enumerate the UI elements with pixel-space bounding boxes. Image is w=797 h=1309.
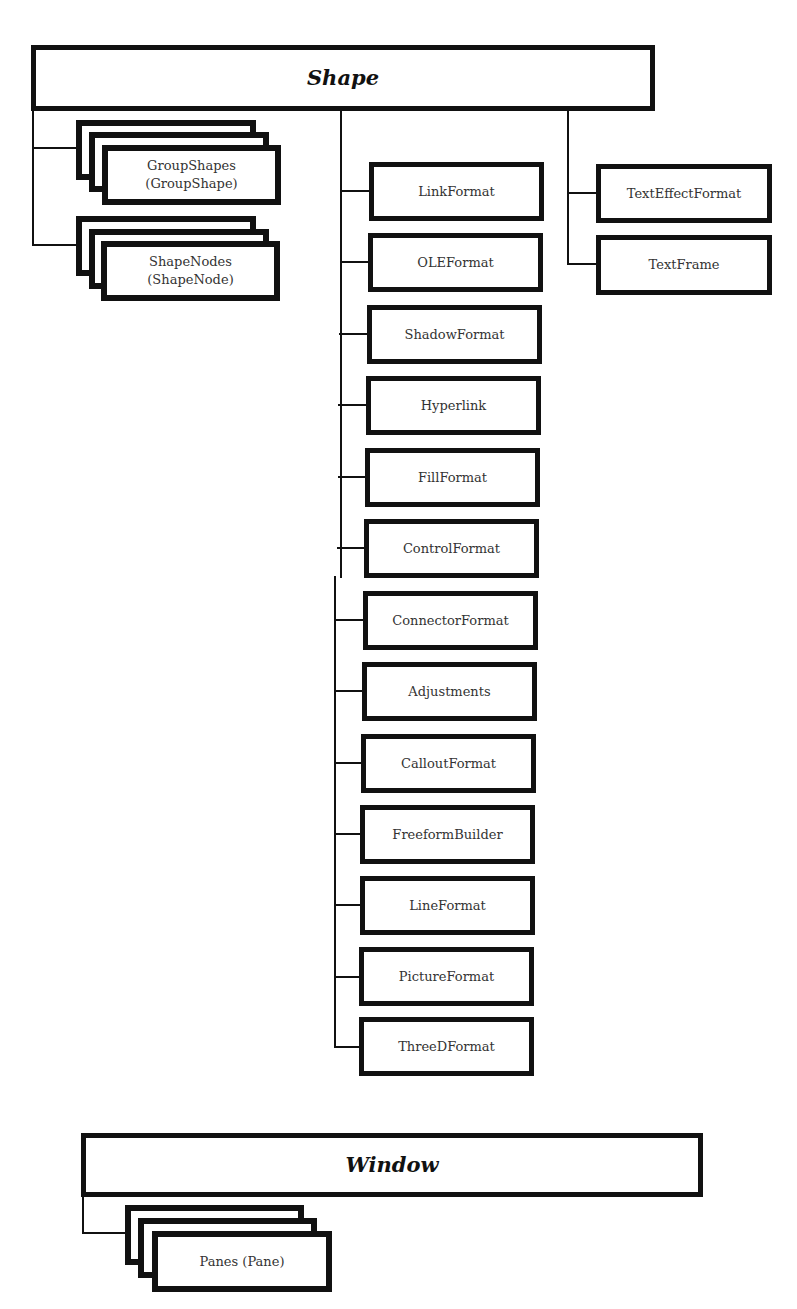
- connector-connectorformat: [335, 619, 364, 621]
- connector-freeformbuilder: [334, 833, 361, 835]
- connector-shadowformat: [339, 333, 368, 335]
- textframe-label: TextFrame: [649, 256, 720, 274]
- linkformat-box[interactable]: LinkFormat: [369, 162, 544, 221]
- shape-object-box[interactable]: Shape: [31, 45, 655, 111]
- connector-shapenodes: [32, 244, 78, 246]
- calloutformat-label: CalloutFormat: [401, 755, 496, 773]
- window-object-box[interactable]: Window: [81, 1133, 703, 1197]
- object-model-diagram: Shape GroupShapes (GroupShape) ShapeNode…: [0, 0, 797, 1309]
- controlformat-label: ControlFormat: [403, 540, 500, 558]
- adjustments-box[interactable]: Adjustments: [362, 662, 537, 721]
- connector-window-vertical: [82, 1194, 84, 1234]
- freeformbuilder-box[interactable]: FreeformBuilder: [360, 805, 535, 864]
- connector-panes: [82, 1232, 128, 1234]
- pictureformat-label: PictureFormat: [399, 968, 494, 986]
- connectorformat-box[interactable]: ConnectorFormat: [363, 591, 538, 650]
- fillformat-label: FillFormat: [418, 469, 487, 487]
- oleformat-label: OLEFormat: [417, 254, 493, 272]
- connector-textframe: [567, 263, 597, 265]
- shapenodes-label: ShapeNodes (ShapeNode): [147, 253, 233, 289]
- hyperlink-label: Hyperlink: [421, 397, 486, 415]
- freeformbuilder-label: FreeformBuilder: [392, 826, 502, 844]
- shape-title: Shape: [307, 69, 379, 87]
- lineformat-box[interactable]: LineFormat: [360, 876, 535, 935]
- shapenodes-collection-box[interactable]: ShapeNodes (ShapeNode): [101, 241, 280, 301]
- fillformat-box[interactable]: FillFormat: [365, 448, 540, 507]
- shadowformat-box[interactable]: ShadowFormat: [367, 305, 542, 364]
- panes-label: Panes (Pane): [200, 1253, 285, 1271]
- threedformat-box[interactable]: ThreeDFormat: [359, 1017, 534, 1076]
- oleformat-box[interactable]: OLEFormat: [368, 233, 543, 292]
- threedformat-label: ThreeDFormat: [398, 1038, 495, 1056]
- textframe-box[interactable]: TextFrame: [596, 235, 772, 295]
- connector-adjustments: [335, 690, 363, 692]
- connector-fillformat: [338, 476, 366, 478]
- pictureformat-box[interactable]: PictureFormat: [359, 947, 534, 1006]
- panes-collection-box[interactable]: Panes (Pane): [152, 1231, 332, 1292]
- groupshapes-label: GroupShapes (GroupShape): [145, 157, 237, 193]
- connector-lineformat: [334, 904, 361, 906]
- calloutformat-box[interactable]: CalloutFormat: [361, 734, 536, 793]
- groupshapes-collection-box[interactable]: GroupShapes (GroupShape): [102, 145, 281, 205]
- connector-groupshapes: [32, 147, 78, 149]
- connector-pictureformat: [334, 976, 360, 978]
- connectorformat-label: ConnectorFormat: [392, 612, 508, 630]
- connector-oleformat: [340, 261, 369, 263]
- connector-left-vertical: [32, 108, 34, 246]
- shadowformat-label: ShadowFormat: [405, 326, 505, 344]
- connector-threedformat: [334, 1046, 360, 1048]
- lineformat-label: LineFormat: [409, 897, 486, 915]
- hyperlink-box[interactable]: Hyperlink: [366, 376, 541, 435]
- texteffectformat-label: TextEffectFormat: [627, 185, 742, 203]
- connector-right-vertical: [567, 108, 569, 265]
- connector-hyperlink: [338, 404, 367, 406]
- connector-texteffectformat: [567, 192, 597, 194]
- window-title: Window: [345, 1156, 438, 1174]
- linkformat-label: LinkFormat: [418, 183, 495, 201]
- texteffectformat-box[interactable]: TextEffectFormat: [596, 164, 772, 223]
- connector-controlformat: [337, 547, 365, 549]
- adjustments-label: Adjustments: [408, 683, 490, 701]
- connector-middle-vertical: [340, 108, 342, 578]
- connector-calloutformat: [334, 762, 362, 764]
- connector-linkformat: [340, 190, 370, 192]
- controlformat-box[interactable]: ControlFormat: [364, 519, 539, 578]
